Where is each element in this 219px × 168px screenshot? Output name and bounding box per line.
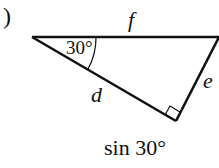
side-e-label: e: [203, 68, 213, 93]
caption: sin 30°: [104, 135, 166, 160]
triangle-diagram: ) f 30° d e sin 30°: [0, 0, 219, 168]
angle-label: 30°: [66, 37, 93, 58]
part-label: ): [3, 3, 11, 29]
side-d-label: d: [91, 82, 103, 107]
side-d-line: [32, 37, 176, 121]
right-angle-marker: [165, 106, 180, 115]
side-f-label: f: [128, 7, 137, 32]
